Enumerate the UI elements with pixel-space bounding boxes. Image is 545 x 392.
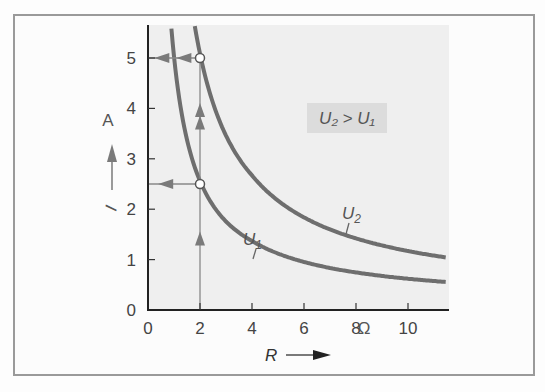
arrow-right-icon [313, 350, 331, 360]
y-unit-label: A [102, 111, 114, 130]
y-axis-title: I [102, 144, 122, 213]
svg-text:I: I [102, 203, 122, 213]
y-tick-label: 5 [127, 49, 136, 68]
y-tick-label: 3 [127, 150, 136, 169]
x-axis-title: R [265, 346, 331, 365]
x-tick-label: 0 [143, 319, 152, 338]
operating-point-marker [196, 54, 205, 63]
current-vs-resistance-chart: 0123450246810 U₂ > U₁ U1 U2 A Ω I R [0, 0, 545, 392]
arrow-up-icon [107, 144, 117, 162]
y-tick-label: 0 [127, 301, 136, 320]
y-tick-label: 1 [127, 251, 136, 270]
x-unit-label: Ω [358, 319, 371, 338]
operating-point-marker [196, 180, 205, 189]
x-tick-label: 2 [195, 319, 204, 338]
x-tick-label: 6 [299, 319, 308, 338]
x-tick-label: 4 [247, 319, 256, 338]
x-tick-label: 10 [399, 319, 418, 338]
y-tick-label: 4 [127, 99, 136, 118]
y-tick-label: 2 [127, 200, 136, 219]
svg-text:R: R [265, 346, 277, 365]
comparison-label: U₂ > U₁ [319, 109, 375, 128]
